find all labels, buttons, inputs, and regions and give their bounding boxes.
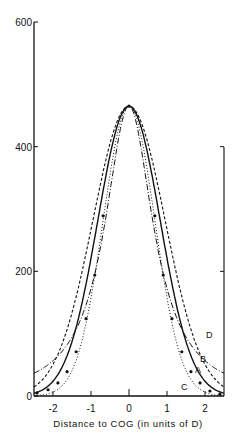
curve-label-d: D bbox=[206, 330, 213, 340]
profile-chart: 0200400600-2-1012 Distance to COG (in un… bbox=[0, 0, 243, 439]
axes bbox=[34, 22, 224, 396]
curve-b bbox=[34, 106, 224, 387]
data-point bbox=[56, 381, 59, 384]
y-tick-label: 600 bbox=[15, 17, 32, 28]
tick-labels: 0200400600-2-1012 bbox=[15, 17, 208, 414]
curve-c bbox=[34, 106, 224, 396]
curve-d bbox=[34, 106, 224, 373]
data-point bbox=[35, 391, 38, 394]
curve-label-a: A bbox=[195, 365, 201, 375]
data-point bbox=[102, 214, 105, 217]
data-point bbox=[198, 381, 201, 384]
data-point bbox=[84, 317, 87, 320]
data-point bbox=[93, 273, 96, 276]
x-tick-label: 0 bbox=[126, 403, 132, 414]
data-point bbox=[46, 388, 49, 391]
data-point bbox=[75, 350, 78, 353]
data-point bbox=[127, 105, 130, 108]
x-tick-label: -2 bbox=[49, 403, 58, 414]
x-axis-label: Distance to COG (in units of D) bbox=[53, 418, 203, 429]
data-point bbox=[65, 370, 68, 373]
curve-label-b: B bbox=[200, 354, 206, 364]
data-point bbox=[208, 389, 211, 392]
data-point bbox=[189, 370, 192, 373]
x-tick-label: 2 bbox=[202, 403, 208, 414]
data-point bbox=[170, 317, 173, 320]
data-point bbox=[162, 273, 165, 276]
x-tick-label: -1 bbox=[87, 403, 96, 414]
data-points bbox=[35, 105, 221, 396]
x-tick-label: 1 bbox=[164, 403, 170, 414]
data-point bbox=[153, 214, 156, 217]
curve-label-c: C bbox=[181, 382, 188, 392]
y-tick-label: 0 bbox=[26, 391, 32, 402]
data-point bbox=[180, 350, 183, 353]
data-point bbox=[218, 393, 221, 396]
curves bbox=[34, 106, 224, 396]
y-tick-label: 200 bbox=[15, 266, 32, 277]
y-tick-label: 400 bbox=[15, 142, 32, 153]
